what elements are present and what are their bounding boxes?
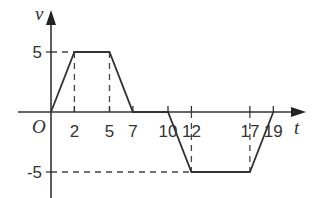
x-tick-label: 19 [264, 122, 283, 141]
y-tick-label: 5 [33, 43, 42, 62]
x-tick-label: 5 [105, 122, 114, 141]
axes [18, 18, 296, 198]
x-axis-arrow-icon [291, 107, 306, 117]
x-tick-labels: 25710121719 [70, 122, 283, 141]
x-tick-label: 10 [159, 122, 178, 141]
y-axis-arrow-icon [46, 10, 56, 25]
y-axis-label: v [35, 3, 44, 24]
x-tick-label: 12 [182, 122, 201, 141]
x-tick-label: 7 [128, 122, 137, 141]
x-tick-label: 17 [240, 122, 259, 141]
velocity-time-graph: v t O 25710121719 5-5 [0, 0, 315, 198]
x-axis-label: t [294, 117, 300, 138]
origin-label: O [32, 116, 46, 137]
y-tick-label: -5 [27, 163, 42, 182]
x-tick-label: 2 [70, 122, 79, 141]
